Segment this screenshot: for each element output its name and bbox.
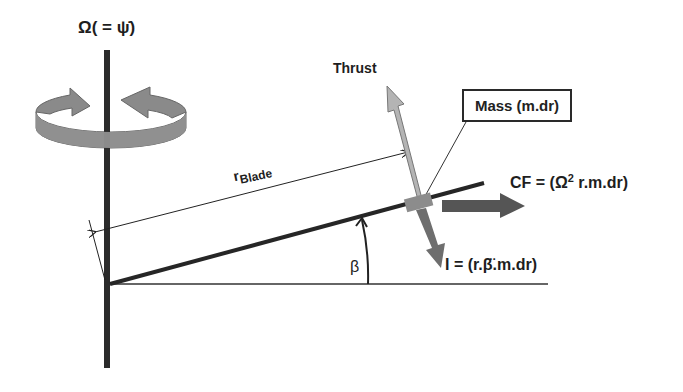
flap-angle-label: β: [350, 258, 359, 276]
cf-prefix: CF = (Ω: [510, 174, 568, 191]
dimension-extension-line: [89, 220, 105, 280]
cf-suffix: r.m.dr): [574, 174, 628, 191]
rotation-rate-label: Ω( = ψ̇): [78, 18, 135, 38]
flap-angle-arc: [362, 220, 368, 284]
mass-box: Mass (m.dr): [462, 89, 572, 122]
inertia-label: I = (r.β̈.m.dr): [445, 256, 537, 274]
rotor-shaft: [104, 50, 110, 368]
diagram-canvas: [0, 0, 683, 392]
inertia-arrow-icon: [416, 208, 445, 268]
centrifugal-force-label: CF = (Ω2 r.m.dr): [510, 172, 628, 192]
centrifugal-force-arrow-icon: [442, 193, 525, 218]
thrust-arrow-icon: [387, 86, 422, 200]
mass-leader-line: [424, 122, 466, 198]
mass-label: Mass (m.dr): [475, 97, 559, 114]
thrust-label: Thrust: [333, 60, 377, 76]
